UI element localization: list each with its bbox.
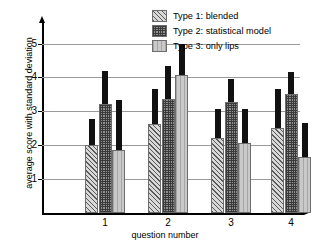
legend-label-type1: Type 1: blended bbox=[173, 11, 238, 21]
x-axis-title: question number bbox=[40, 230, 290, 240]
bar-type3-q2 bbox=[175, 75, 188, 213]
error-bar-type1-q3 bbox=[215, 109, 221, 138]
bar-type2-q3 bbox=[225, 102, 238, 213]
legend-item-type3: Type 3: only lips bbox=[152, 38, 312, 53]
error-bar-type2-q4 bbox=[288, 72, 294, 94]
y-tick-label: 2 bbox=[23, 140, 37, 150]
legend-label-type2: Type 2: statistical model bbox=[173, 26, 271, 36]
error-bar-type2-q1 bbox=[102, 71, 108, 104]
legend-item-type2: Type 2: statistical model bbox=[152, 23, 312, 38]
error-bar-type1-q4 bbox=[275, 89, 281, 128]
error-bar-type1-q2 bbox=[152, 89, 158, 124]
y-tick-label: 1 bbox=[23, 174, 37, 184]
legend-swatch-type1 bbox=[152, 10, 167, 22]
bar-group bbox=[271, 30, 311, 213]
legend-label-type3: Type 3: only lips bbox=[173, 41, 239, 51]
bar-chart-figure: average score with standard deviation 12… bbox=[0, 0, 317, 248]
bar-type1-q2 bbox=[148, 124, 161, 213]
y-axis-line bbox=[42, 22, 44, 213]
bar-type3-q3 bbox=[238, 143, 251, 213]
bar-type2-q1 bbox=[99, 104, 112, 213]
error-bar-type3-q4 bbox=[302, 123, 308, 157]
chart-legend: Type 1: blended Type 2: statistical mode… bbox=[152, 8, 312, 53]
legend-item-type1: Type 1: blended bbox=[152, 8, 312, 23]
bar-group bbox=[85, 30, 125, 213]
bar-type2-q4 bbox=[285, 94, 298, 213]
y-tick-mark bbox=[38, 179, 42, 180]
y-tick-mark bbox=[38, 145, 42, 146]
y-axis-arrow-icon bbox=[39, 16, 45, 23]
legend-swatch-type2 bbox=[152, 25, 167, 37]
legend-swatch-type3 bbox=[152, 40, 167, 52]
error-bar-type3-q1 bbox=[116, 100, 122, 150]
x-tick-label: 3 bbox=[228, 217, 234, 228]
x-tick-label: 2 bbox=[165, 217, 171, 228]
x-tick-label: 4 bbox=[288, 217, 294, 228]
y-tick-label: 4 bbox=[23, 72, 37, 82]
error-bar-type1-q1 bbox=[89, 119, 95, 145]
bar-type3-q1 bbox=[112, 150, 125, 213]
bar-type3-q4 bbox=[298, 157, 311, 213]
error-bar-type3-q3 bbox=[242, 109, 248, 143]
y-tick-label: 5 bbox=[23, 39, 37, 49]
x-axis-line bbox=[42, 213, 304, 215]
bar-group bbox=[211, 30, 251, 213]
error-bar-type2-q2 bbox=[165, 66, 171, 100]
bar-type1-q3 bbox=[211, 138, 224, 213]
bar-group bbox=[148, 30, 188, 213]
error-bar-type2-q3 bbox=[228, 79, 234, 102]
y-tick-mark bbox=[38, 111, 42, 112]
bar-type1-q1 bbox=[85, 145, 98, 213]
x-tick-label: 1 bbox=[102, 217, 108, 228]
plot-area: 12345 1234 bbox=[42, 30, 300, 213]
bar-type2-q2 bbox=[162, 99, 175, 213]
y-tick-label: 3 bbox=[23, 106, 37, 116]
y-tick-mark bbox=[38, 44, 42, 45]
y-tick-mark bbox=[38, 77, 42, 78]
bar-type1-q4 bbox=[271, 128, 284, 213]
